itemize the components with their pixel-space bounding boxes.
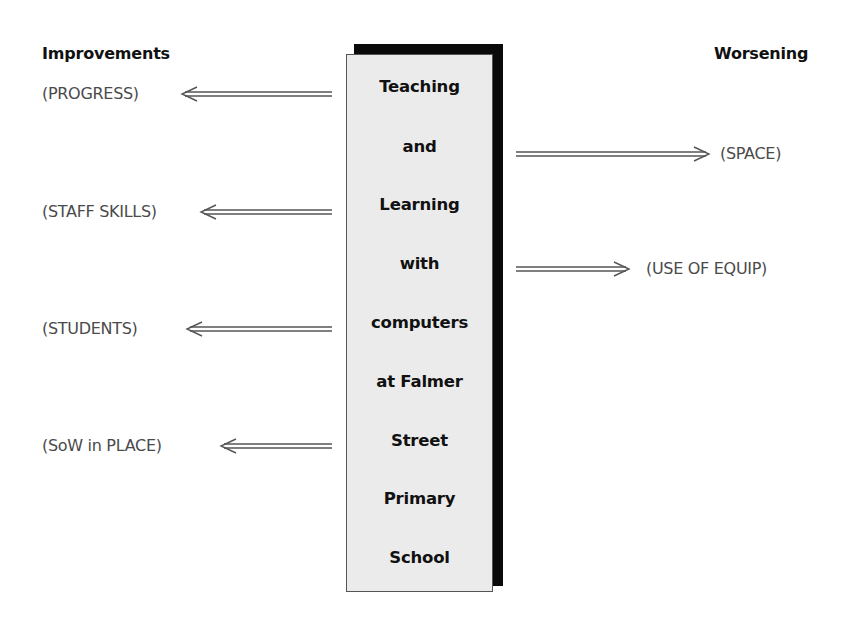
center-line-8: Primary — [347, 489, 492, 508]
improvement-label-students: (STUDENTS) — [42, 319, 137, 338]
center-line-1: Teaching — [347, 77, 492, 96]
center-line-2: and — [347, 137, 492, 156]
left-double-arrow-icon — [200, 205, 332, 219]
right-double-arrow-icon — [516, 147, 710, 161]
center-line-9: School — [347, 548, 492, 567]
left-double-arrow-icon — [220, 439, 332, 453]
center-line-5: computers — [347, 313, 492, 332]
center-line-6: at Falmer — [347, 372, 492, 391]
center-topic-box: Teaching and Learning with computers at … — [346, 54, 493, 592]
left-double-arrow-icon — [181, 87, 332, 101]
left-double-arrow-icon — [186, 322, 332, 336]
center-line-7: Street — [347, 431, 492, 450]
worsening-label-space: (SPACE) — [720, 144, 781, 163]
improvement-label-progress: (PROGRESS) — [42, 84, 139, 103]
improvement-label-sow-in-place: (SoW in PLACE) — [42, 436, 162, 455]
center-line-3: Learning — [347, 195, 492, 214]
center-line-4: with — [347, 254, 492, 273]
worsening-heading: Worsening — [714, 44, 808, 63]
worsening-label-use-of-equip: (USE OF EQUIP) — [646, 259, 767, 278]
improvement-label-staff-skills: (STAFF SKILLS) — [42, 202, 157, 221]
improvements-heading: Improvements — [42, 44, 170, 63]
right-double-arrow-icon — [516, 262, 630, 276]
